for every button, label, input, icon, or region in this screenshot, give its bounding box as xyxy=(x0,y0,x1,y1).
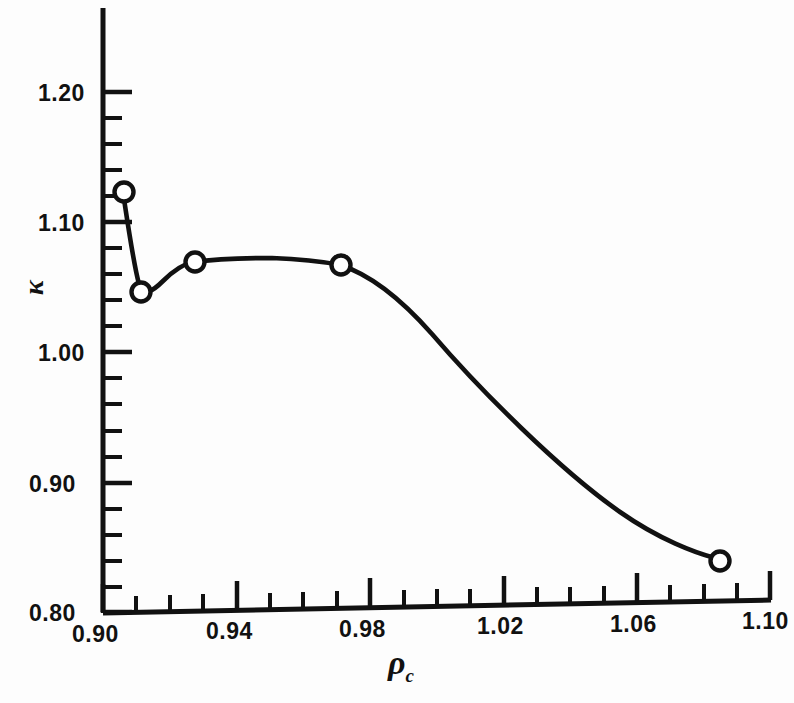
x-axis-label: ρc xyxy=(388,644,414,687)
data-curve xyxy=(124,199,715,558)
x-tick-label-0-94: 0.94 xyxy=(206,618,253,645)
x-tick-label-0-98: 0.98 xyxy=(339,616,386,643)
axis-lines xyxy=(103,8,771,613)
x-tick-label-1-02: 1.02 xyxy=(477,613,524,640)
data-point-markers xyxy=(115,183,730,571)
figure-canvas: 1.20 1.10 1.00 0.90 0.80 0.90 0.94 0.98 … xyxy=(0,0,794,703)
x-tick-label-1-10: 1.10 xyxy=(742,608,789,635)
chart-plot xyxy=(0,0,794,703)
y-tick-label-0-80: 0.80 xyxy=(29,600,76,627)
y-axis-label: κ xyxy=(18,280,50,295)
data-point xyxy=(186,253,205,272)
data-point xyxy=(711,552,730,571)
x-tick-label-1-06: 1.06 xyxy=(610,611,657,638)
data-point xyxy=(332,256,351,275)
y-tick-label-1-20: 1.20 xyxy=(38,80,85,107)
y-tick-label-0-90: 0.90 xyxy=(29,471,76,498)
x-tick-label-0-90: 0.90 xyxy=(72,621,119,648)
x-axis-label-base: ρ xyxy=(388,644,406,681)
y-tick-label-1-10: 1.10 xyxy=(38,210,85,237)
data-point xyxy=(132,283,151,302)
y-tick-label-1-00: 1.00 xyxy=(38,340,85,367)
data-point xyxy=(115,183,134,202)
x-axis-label-subscript: c xyxy=(406,665,414,686)
